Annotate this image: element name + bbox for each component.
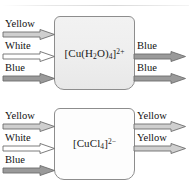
right-arrow-icon	[2, 143, 56, 154]
right-arrow-icon	[2, 51, 56, 62]
arrow-label: White	[5, 132, 31, 143]
arrow-label: Blue	[137, 40, 157, 51]
right-arrow-icon	[2, 73, 56, 84]
top-divider-rule	[2, 5, 189, 6]
input-arrow-white-vessel-2: White	[2, 132, 58, 154]
input-arrow-yellow-vessel-1: Yellow	[2, 18, 58, 40]
arrow-label: Yellow	[137, 110, 167, 121]
arrow-label: Yellow	[5, 18, 35, 29]
arrow-label: Blue	[5, 154, 25, 165]
formula-chloro-copper: [CuCl4]2−	[55, 137, 134, 151]
arrow-label: Yellow	[5, 110, 35, 121]
vessel-aqua-copper: [Cu(H2O)4]2+	[54, 16, 135, 90]
output-arrow-blue-2-vessel-1: Blue	[133, 62, 189, 84]
arrow-label: Yellow	[137, 132, 167, 143]
formula-aqua-copper: [Cu(H2O)4]2+	[55, 47, 134, 61]
arrow-label: Blue	[5, 62, 25, 73]
input-arrow-blue-vessel-2: Blue	[2, 154, 58, 176]
arrow-label: White	[5, 40, 31, 51]
input-arrow-white-vessel-1: White	[2, 40, 58, 62]
input-arrow-blue-vessel-1: Blue	[2, 62, 58, 84]
arrow-label: Blue	[137, 62, 157, 73]
output-arrow-blue-1-vessel-1: Blue	[133, 40, 189, 62]
right-arrow-icon	[133, 143, 187, 154]
right-arrow-icon	[2, 165, 56, 176]
vessel-chloro-copper: [CuCl4]2−	[54, 108, 135, 180]
output-arrow-yellow-1-vessel-2: Yellow	[133, 110, 189, 132]
right-arrow-icon	[133, 73, 187, 84]
right-arrow-icon	[133, 121, 187, 132]
right-arrow-icon	[2, 29, 56, 40]
output-arrow-yellow-2-vessel-2: Yellow	[133, 132, 189, 154]
right-arrow-icon	[133, 51, 187, 62]
right-arrow-icon	[2, 121, 56, 132]
diagram-canvas: [Cu(H2O)4]2+ Yellow White Blue Blue Blue	[0, 0, 191, 186]
input-arrow-yellow-vessel-2: Yellow	[2, 110, 58, 132]
